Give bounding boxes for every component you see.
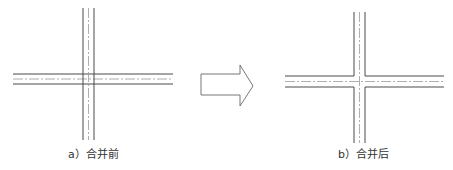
caption-panel-a: a）合并前	[68, 149, 119, 161]
panel-b-intersection-after-merge	[285, 12, 444, 143]
caption-panel-b: b）合并后	[338, 149, 389, 161]
merge-arrow-icon	[201, 65, 253, 106]
road-b-corner-top-right	[365, 12, 444, 76]
panel-a-intersection-before-merge	[13, 8, 173, 140]
road-b-corner-top-left	[285, 12, 354, 76]
road-b-corner-bottom-left	[285, 87, 354, 143]
diagram-canvas	[0, 0, 453, 170]
road-b-corner-bottom-right	[365, 87, 444, 143]
